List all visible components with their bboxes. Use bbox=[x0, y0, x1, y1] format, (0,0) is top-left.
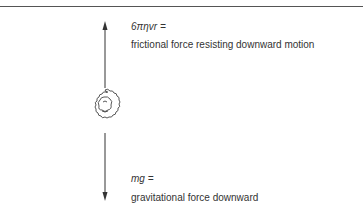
friction-description: frictional force resisting downward moti… bbox=[131, 39, 314, 50]
friction-equation: 6πηvr = bbox=[131, 21, 166, 32]
particle-icon bbox=[95, 89, 120, 118]
upward-arrow-icon bbox=[103, 21, 108, 88]
gravity-description: gravitational force downward bbox=[131, 192, 258, 203]
force-diagram bbox=[0, 0, 363, 214]
gravity-equation: mg = bbox=[131, 173, 154, 184]
downward-arrow-icon bbox=[103, 133, 108, 201]
